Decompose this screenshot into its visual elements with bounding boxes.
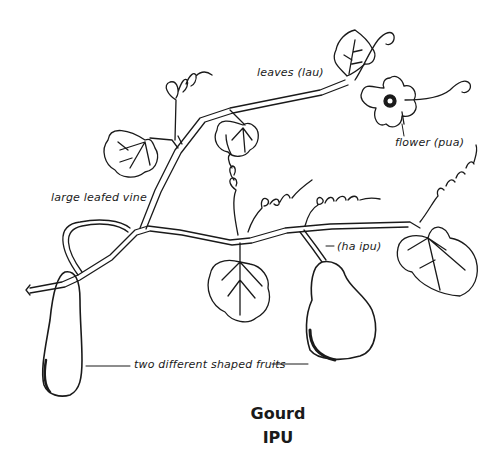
- flower: [361, 76, 416, 126]
- figure-subtitle: IPU: [0, 428, 504, 447]
- label-flower: flower (pua): [395, 136, 464, 149]
- fruits: [43, 262, 376, 397]
- label-vine: large leafed vine: [51, 191, 147, 204]
- label-fruits: two different shaped fruits: [134, 358, 286, 371]
- figure-title: Gourd: [0, 404, 504, 423]
- gourd-illustration: [0, 0, 504, 470]
- main-vine: [26, 80, 420, 295]
- label-stem: (ha ipu): [337, 240, 381, 253]
- label-leaves: leaves (lau): [257, 66, 324, 79]
- tendrils: [166, 33, 477, 235]
